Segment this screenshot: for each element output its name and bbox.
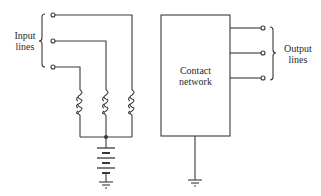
output-terminal-3	[261, 76, 265, 80]
output-brace	[270, 27, 276, 80]
ground-icon-1	[99, 182, 113, 188]
coil-icon-3	[129, 90, 135, 137]
input-terminal-1	[51, 13, 55, 17]
output-label-line2: lines	[278, 54, 318, 65]
output-label-line1: Output	[278, 43, 318, 54]
box-label-line1: Contact	[163, 65, 228, 76]
coil-icon-2	[103, 90, 109, 137]
input-wire-3	[55, 67, 80, 90]
input-wire-1	[55, 15, 132, 90]
input-terminal-3	[51, 65, 55, 69]
input-label-line2: lines	[10, 41, 40, 52]
battery-icon	[97, 137, 115, 182]
input-label-line1: Input	[10, 30, 40, 41]
ground-icon-2	[188, 180, 202, 186]
output-terminal-1	[261, 26, 265, 30]
coil-icon-1	[77, 90, 83, 137]
box-label-line2: network	[163, 76, 228, 87]
output-terminal-2	[261, 51, 265, 55]
output-lines-label: Output lines	[278, 43, 318, 65]
input-terminal-2	[51, 39, 55, 43]
contact-network-label: Contact network	[163, 65, 228, 87]
input-lines-label: Input lines	[10, 30, 40, 52]
relay-circuit-diagram	[0, 0, 321, 196]
